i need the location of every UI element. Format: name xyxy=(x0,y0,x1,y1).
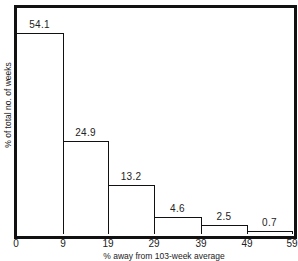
x-tick-label: 9 xyxy=(51,238,75,249)
x-axis-label: % away from 103-week average xyxy=(0,251,298,261)
x-tick-label: 29 xyxy=(142,238,166,249)
bar-value-label: 4.6 xyxy=(158,203,198,214)
histogram-bar xyxy=(108,185,155,234)
histogram-bar xyxy=(201,225,248,234)
bar-value-label: 24.9 xyxy=(66,127,106,138)
histogram-bar xyxy=(63,141,109,234)
x-tick-label: 19 xyxy=(96,238,120,249)
bar-value-label: 13.2 xyxy=(111,171,151,182)
histogram-chart: 54.124.913.24.62.50.7 091929394959 % awa… xyxy=(0,0,298,261)
x-tick-label: 39 xyxy=(189,238,213,249)
histogram-bar xyxy=(16,33,64,234)
y-axis-label: % of total no. of weeks xyxy=(3,45,13,165)
bar-value-label: 0.7 xyxy=(250,217,290,228)
x-tick-label: 0 xyxy=(4,238,28,249)
bar-value-label: 2.5 xyxy=(204,211,244,222)
x-tick-label: 49 xyxy=(235,238,259,249)
histogram-bar xyxy=(247,231,293,234)
bar-value-label: 54.1 xyxy=(20,19,60,30)
x-tick-label: 59 xyxy=(280,238,298,249)
histogram-bar xyxy=(154,217,202,234)
